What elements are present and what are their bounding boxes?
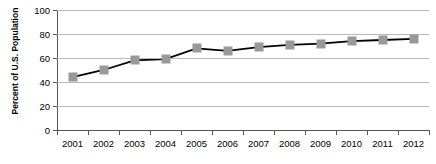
gridline bbox=[57, 10, 429, 11]
data-point-marker bbox=[254, 43, 263, 52]
x-axis-tick-label: 2012 bbox=[403, 138, 424, 149]
x-axis-tick bbox=[150, 130, 151, 135]
x-axis-tick-label: 2009 bbox=[310, 138, 331, 149]
x-axis-tick-label: 2010 bbox=[341, 138, 362, 149]
y-axis-tick bbox=[53, 34, 57, 35]
x-axis-tick bbox=[305, 130, 306, 135]
x-axis-tick-label: 2008 bbox=[279, 138, 300, 149]
data-point-marker bbox=[68, 73, 77, 82]
data-point-marker bbox=[409, 34, 418, 43]
data-point-marker bbox=[378, 36, 387, 45]
x-axis-tick bbox=[429, 130, 430, 135]
x-axis-tick-label: 2007 bbox=[248, 138, 269, 149]
y-axis-tick-label: 20 bbox=[39, 101, 50, 112]
y-axis-tick bbox=[53, 82, 57, 83]
y-axis-title: Percent of U.S. Population bbox=[10, 0, 20, 131]
x-axis-tick bbox=[243, 130, 244, 135]
series-line bbox=[57, 10, 429, 130]
line-chart: Percent of U.S. Population 100806040200 … bbox=[0, 0, 436, 164]
plot-area: 100806040200 bbox=[57, 10, 429, 130]
y-axis-tick-label: 100 bbox=[34, 5, 50, 16]
y-axis-tick-label: 60 bbox=[39, 53, 50, 64]
data-point-marker bbox=[161, 55, 170, 64]
x-axis-tick bbox=[274, 130, 275, 135]
data-point-marker bbox=[99, 66, 108, 75]
x-axis-tick-label: 2006 bbox=[217, 138, 238, 149]
data-point-marker bbox=[192, 44, 201, 53]
x-axis-tick bbox=[181, 130, 182, 135]
data-point-marker bbox=[316, 39, 325, 48]
x-axis-tick-label: 2005 bbox=[186, 138, 207, 149]
y-axis-tick-label: 0 bbox=[45, 125, 50, 136]
data-point-marker bbox=[223, 46, 232, 55]
y-axis-tick bbox=[53, 106, 57, 107]
x-axis-tick bbox=[57, 130, 58, 135]
x-axis-tick bbox=[398, 130, 399, 135]
x-axis-tick bbox=[212, 130, 213, 135]
x-axis-tick bbox=[88, 130, 89, 135]
gridline bbox=[57, 106, 429, 107]
x-axis-tick-label: 2001 bbox=[62, 138, 83, 149]
gridline bbox=[57, 82, 429, 83]
x-axis-tick-label: 2004 bbox=[155, 138, 176, 149]
x-axis-tick-label: 2011 bbox=[372, 138, 392, 149]
x-axis-tick bbox=[119, 130, 120, 135]
data-point-marker bbox=[347, 37, 356, 46]
x-axis: 2001200220032004200520062007200820092010… bbox=[57, 130, 429, 164]
x-axis-tick-label: 2002 bbox=[93, 138, 114, 149]
x-axis-tick bbox=[336, 130, 337, 135]
data-point-marker bbox=[285, 40, 294, 49]
gridline bbox=[57, 34, 429, 35]
y-axis-tick-label: 80 bbox=[39, 29, 50, 40]
y-axis-tick bbox=[53, 10, 57, 11]
x-axis-tick bbox=[367, 130, 368, 135]
gridline bbox=[57, 58, 429, 59]
y-axis-tick bbox=[53, 58, 57, 59]
data-point-marker bbox=[130, 56, 139, 65]
x-axis-tick-label: 2003 bbox=[124, 138, 145, 149]
y-axis-tick-label: 40 bbox=[39, 77, 50, 88]
